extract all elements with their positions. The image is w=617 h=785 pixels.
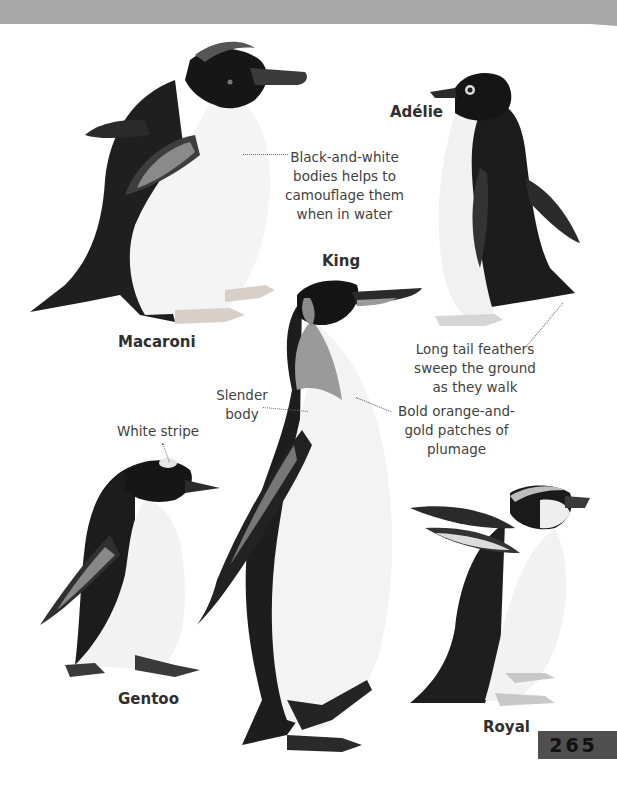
page-number: 265: [538, 731, 617, 759]
annotation-plumage: Bold orange-and- gold patches of plumage: [394, 402, 519, 459]
adelie-penguin-illustration: [425, 68, 585, 328]
annotation-tail-feathers: Long tail feathers sweep the ground as t…: [410, 340, 540, 397]
torn-edge: [0, 0, 617, 26]
royal-penguin-illustration: [405, 478, 595, 710]
gentoo-penguin-illustration: [35, 455, 235, 690]
species-label-gentoo: Gentoo: [118, 690, 179, 708]
annotation-white-stripe: White stripe: [108, 422, 208, 441]
species-label-royal: Royal: [483, 718, 530, 736]
species-label-king: King: [322, 252, 360, 270]
top-header-band: [0, 0, 617, 24]
annotation-camouflage: Black-and-white bodies helps to camoufla…: [282, 148, 407, 224]
species-label-adelie: Adélie: [390, 103, 443, 121]
species-label-macaroni: Macaroni: [118, 333, 196, 351]
annotation-slender-body: Slender body: [212, 386, 272, 424]
